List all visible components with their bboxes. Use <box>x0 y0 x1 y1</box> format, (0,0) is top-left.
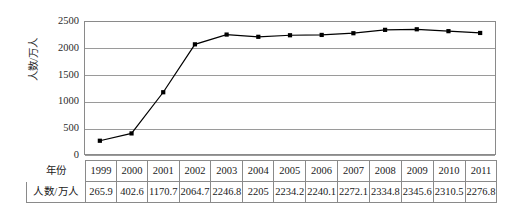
data-point-2004 <box>256 35 260 39</box>
table-cell-year-2006: 2006 <box>306 161 338 182</box>
table-cell-year-2001: 2001 <box>148 161 180 182</box>
y-axis-title: 人数/万人 <box>25 25 40 95</box>
table-cell-year-2000: 2000 <box>117 161 148 182</box>
table-cell-year-2007: 2007 <box>338 161 370 182</box>
table-cell-year-1999: 1999 <box>86 161 117 182</box>
series-line-population <box>100 29 480 140</box>
y-tick-label-0: 0 <box>40 150 79 160</box>
data-point-2005 <box>288 33 292 37</box>
table-cell-year-2009: 2009 <box>401 161 433 182</box>
table-cell-value-2009: 2345.6 <box>401 182 433 203</box>
line-chart-figure: 人数/万人 05001000150020002500 年份19992000200… <box>0 0 515 206</box>
data-point-2000 <box>129 131 133 135</box>
table-cell-value-2011: 2276.8 <box>465 182 497 203</box>
table-cell-value-2003: 2246.8 <box>211 182 243 203</box>
table-cell-value-2002: 2064.7 <box>179 182 211 203</box>
gridline-0 <box>85 155 495 156</box>
table-row: 人数/万人265.9402.61170.72064.72246.82205223… <box>27 182 497 203</box>
table-cell-year-2004: 2004 <box>243 161 274 182</box>
table-cell-value-2006: 2240.1 <box>306 182 338 203</box>
table-cell-year-2010: 2010 <box>433 161 465 182</box>
data-point-2011 <box>478 31 482 35</box>
data-point-2007 <box>351 31 355 35</box>
table-cell-value-2007: 2272.1 <box>338 182 370 203</box>
data-point-2002 <box>193 42 197 46</box>
table-cell-year-2008: 2008 <box>369 161 401 182</box>
data-point-2001 <box>161 90 165 94</box>
y-tick-label-500: 500 <box>40 123 79 133</box>
data-point-2009 <box>415 27 419 31</box>
table-row-header-year: 年份 <box>27 161 86 182</box>
data-point-2006 <box>320 33 324 37</box>
table-row-header-population: 人数/万人 <box>27 182 86 203</box>
data-point-2008 <box>383 28 387 32</box>
table-cell-value-2004: 2205 <box>243 182 274 203</box>
table-cell-value-2000: 402.6 <box>117 182 148 203</box>
data-table: 年份19992000200120022003200420052006200720… <box>26 160 497 203</box>
y-tick-label-2000: 2000 <box>40 43 79 53</box>
data-point-1999 <box>98 139 102 143</box>
series-markers <box>98 27 483 143</box>
table-cell-year-2003: 2003 <box>211 161 243 182</box>
y-tick-label-2500: 2500 <box>40 16 79 26</box>
table-cell-year-2002: 2002 <box>179 161 211 182</box>
data-point-2003 <box>225 32 229 36</box>
table-cell-year-2005: 2005 <box>274 161 306 182</box>
table-cell-value-2010: 2310.5 <box>433 182 465 203</box>
data-point-2010 <box>446 29 450 33</box>
table-cell-year-2011: 2011 <box>465 161 497 182</box>
table-row: 年份19992000200120022003200420052006200720… <box>27 161 497 182</box>
table-cell-value-1999: 265.9 <box>86 182 117 203</box>
table-cell-value-2001: 1170.7 <box>148 182 180 203</box>
y-tick-label-1500: 1500 <box>40 70 79 80</box>
table-cell-value-2005: 2234.2 <box>274 182 306 203</box>
y-tick-label-1000: 1000 <box>40 96 79 106</box>
data-series-layer <box>84 21 496 155</box>
table-cell-value-2008: 2334.8 <box>369 182 401 203</box>
